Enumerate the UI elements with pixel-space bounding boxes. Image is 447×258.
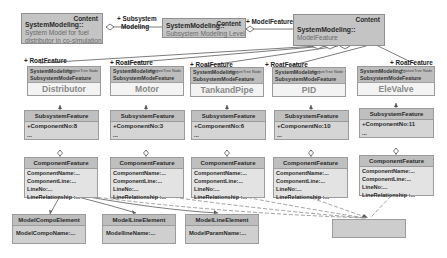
model-feature-link-label: + ModelFeature: [246, 18, 293, 26]
component-feature-motor[interactable]: ComponentFeature ComponentName:... Compo…: [110, 157, 184, 198]
component-line: ComponentLine:...: [192, 177, 264, 185]
line-relationship: LineRelationship :...: [111, 193, 183, 201]
model-compo-element[interactable]: ModelCompoElement ModelCompoName:...: [12, 214, 86, 244]
subsystem-header: SubsystemFeature: [275, 111, 348, 122]
root-feature-label: + RoatFeature: [190, 61, 233, 69]
model-param-element[interactable]: ModelLineElement ModelParamName:...: [185, 214, 259, 244]
model-feature-desc: ModelFeature: [297, 34, 338, 42]
subsystem-feature-motor[interactable]: SubsystemFeature +ComponentNo:3 ...: [110, 110, 185, 140]
root-feature-label: + RoatFeature: [110, 59, 153, 67]
component-name: ComponentName:...: [111, 169, 183, 177]
line-no: LineNo:...: [192, 185, 264, 193]
root-feature-label: + RoatFeature: [390, 59, 433, 67]
component-header: ComponentFeature: [192, 158, 264, 169]
model-header: ModelCompoElement: [13, 215, 85, 226]
subsystem-feature-tankandpipe[interactable]: SubsystemFeature +ComponentNo:6 ...: [191, 110, 266, 140]
component-header: ComponentFeature: [111, 158, 183, 169]
feature-hdr-stereo: FeatureTree Node: [67, 69, 98, 73]
subsystem-modeling-desc: Subsystem Modeling Level: [166, 30, 245, 38]
more-attrs: ...: [360, 129, 433, 138]
root-feature-label: + RoatFeature: [24, 57, 67, 65]
component-no: +ComponentNo:11: [360, 120, 433, 129]
feature-name: Motor: [111, 83, 183, 96]
line-no: LineNo:...: [274, 185, 347, 193]
subsystem-link-label-2: Modeling: [121, 23, 149, 31]
component-no: +ComponentNo:10: [275, 122, 348, 131]
line-relationship: LineRelationship :...: [25, 193, 97, 201]
feature-hdr-stereo: FeatureTree Node: [401, 69, 432, 73]
stereotype-content: Content: [355, 16, 380, 23]
system-model-title: SystemModeling::: [25, 21, 84, 28]
model-header: ModelLineElement: [186, 215, 258, 226]
component-line: ComponentLine:...: [360, 175, 433, 183]
system-model-desc-2: distributor in co-simulation: [25, 37, 102, 45]
line-no: LineNo:...: [360, 183, 433, 191]
feature-hdr-type: SubsystemModeFeature: [360, 75, 421, 81]
component-feature-pid[interactable]: ComponentFeature ComponentName:... Compo…: [273, 157, 348, 198]
root-feature-label: + RoatFeature: [265, 61, 308, 69]
empty-target-box[interactable]: [332, 219, 406, 238]
feature-hdr-stereo: FeatureTree Node: [230, 70, 261, 74]
model-feature-box[interactable]: Content SystemModeling:: ModelFeature: [293, 14, 385, 46]
feature-name: EleValve: [358, 83, 434, 96]
subsystem-modeling-box[interactable]: Content SystemModeling:: Subsystem Model…: [162, 18, 246, 38]
line-relationship: LineRelationship :...: [360, 191, 433, 199]
feature-hdr-type: SubsystemModeFeature: [30, 75, 91, 81]
model-line-element[interactable]: ModelLineElement ModellineName:...: [102, 214, 176, 244]
component-name: ComponentName:...: [192, 169, 264, 177]
component-header: ComponentFeature: [25, 158, 97, 169]
more-attrs: ...: [275, 131, 348, 140]
model-row: ModellineName:...: [103, 226, 175, 240]
component-no: +ComponentNo:8: [25, 122, 98, 131]
subsystem-feature-pid[interactable]: SubsystemFeature +ComponentNo:10 ...: [274, 110, 349, 140]
subsystem-header: SubsystemFeature: [360, 109, 433, 120]
feature-motor[interactable]: SystemModeling::FeatureTree NodeSubsyste…: [110, 66, 184, 96]
feature-distributor[interactable]: SystemModeling::FeatureTree NodeSubsyste…: [27, 66, 101, 96]
line-relationship: LineRelationship :...: [274, 193, 347, 201]
feature-name: Distributor: [28, 83, 100, 96]
component-no: +ComponentNo:6: [192, 122, 265, 131]
more-attrs: ...: [192, 131, 265, 140]
subsystem-link-label-1: + Subsystem: [117, 15, 157, 23]
subsystem-header: SubsystemFeature: [192, 111, 265, 122]
feature-tankandpipe[interactable]: SystemModeling::FeatureTree NodeSubsyste…: [190, 67, 264, 97]
subsystem-modeling-title: SystemModeling::: [166, 22, 225, 29]
feature-hdr-type: SubsystemModeFeature: [193, 76, 254, 82]
feature-hdr-type: SubsystemModeFeature: [113, 75, 174, 81]
line-relationship: LineRelationship :...: [192, 193, 264, 201]
feature-hdr-stereo: FeatureTree Node: [150, 69, 181, 73]
feature-hdr-type: SubsystemModeFeature: [275, 76, 336, 82]
model-row: ModelCompoName:...: [13, 226, 85, 240]
line-no: LineNo:...: [111, 185, 183, 193]
feature-hdr-stereo: FeatureTree Node: [312, 70, 343, 74]
model-header: ModelLineElement: [103, 215, 175, 226]
component-line: ComponentLine:...: [274, 177, 347, 185]
model-row: ModelParamName:...: [186, 226, 258, 240]
feature-hdr: SystemModeling::: [360, 68, 406, 74]
feature-name: PID: [273, 84, 345, 97]
subsystem-header: SubsystemFeature: [25, 111, 98, 122]
line-no: LineNo:...: [25, 185, 97, 193]
feature-elevalve[interactable]: SystemModeling::FeatureTree NodeSubsyste…: [357, 66, 435, 96]
system-model-box[interactable]: Content SystemModeling:: System Model fo…: [21, 13, 103, 44]
subsystem-feature-distributor[interactable]: SubsystemFeature +ComponentNo:8 ...: [24, 110, 99, 140]
component-name: ComponentName:...: [274, 169, 347, 177]
component-feature-elevalve[interactable]: ComponentFeature ComponentName:... Compo…: [359, 155, 434, 196]
more-attrs: ...: [25, 131, 98, 140]
component-name: ComponentName:...: [360, 167, 433, 175]
more-attrs: ...: [111, 131, 184, 140]
component-header: ComponentFeature: [274, 158, 347, 169]
model-feature-title: SystemModeling::: [297, 26, 356, 33]
component-header: ComponentFeature: [360, 156, 433, 167]
feature-name: TankandPipe: [191, 84, 263, 97]
subsystem-feature-elevalve[interactable]: SubsystemFeature +ComponentNo:11 ...: [359, 108, 434, 138]
subsystem-header: SubsystemFeature: [111, 111, 184, 122]
component-line: ComponentLine:...: [111, 177, 183, 185]
component-name: ComponentName:...: [25, 169, 97, 177]
component-feature-tankandpipe[interactable]: ComponentFeature ComponentName:... Compo…: [191, 157, 265, 198]
feature-pid[interactable]: SystemModeling::FeatureTree NodeSubsyste…: [272, 67, 346, 97]
system-model-desc-1: System Model for fuel: [25, 29, 89, 37]
component-line: ComponentLine:...: [25, 177, 97, 185]
component-feature-distributor[interactable]: ComponentFeature ComponentName:... Compo…: [24, 157, 98, 198]
component-no: +ComponentNo:3: [111, 122, 184, 131]
